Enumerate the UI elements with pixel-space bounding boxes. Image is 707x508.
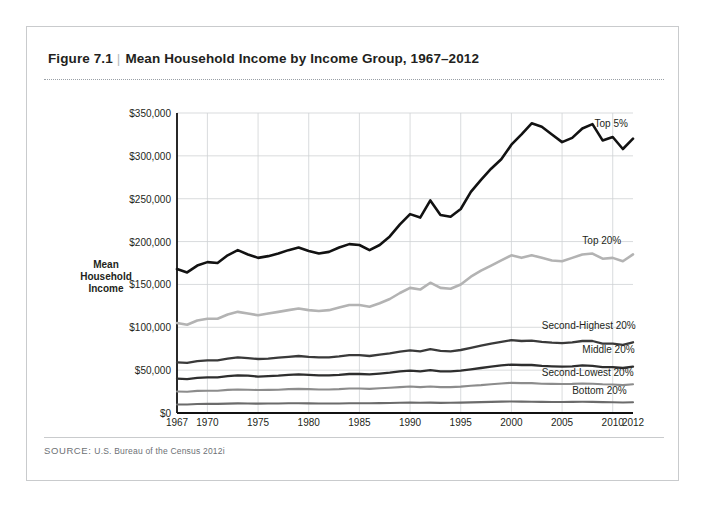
series-line <box>177 123 633 272</box>
figure-card: Figure 7.1|Mean Household Income by Inco… <box>26 26 679 481</box>
x-axis-tick-label: 1975 <box>247 417 269 428</box>
x-axis-tick-label: 1985 <box>348 417 370 428</box>
x-axis-tick-label: 1970 <box>196 417 218 428</box>
source-label: SOURCE: <box>44 445 91 456</box>
series-label: Top 5% <box>594 118 627 129</box>
y-axis-tick-label: $150,000 <box>87 279 171 290</box>
series-line <box>177 401 633 404</box>
series-label: Second-Lowest 20% <box>542 367 634 378</box>
series-line <box>177 383 633 392</box>
x-axis-tick-label: 2012 <box>622 417 644 428</box>
x-axis-tick-label: 1990 <box>399 417 421 428</box>
series-line <box>177 254 633 325</box>
y-axis-tick-label: $300,000 <box>87 150 171 161</box>
x-axis-tick-label: 1967 <box>166 417 188 428</box>
x-axis-tick-label: 1980 <box>298 417 320 428</box>
y-axis-tick-label: $250,000 <box>87 193 171 204</box>
y-axis-tick-label: $50,000 <box>87 365 171 376</box>
source-note: SOURCE: U.S. Bureau of the Census 2012i <box>44 445 225 456</box>
series-label: Middle 20% <box>582 344 634 355</box>
x-axis-tick-label: 2005 <box>551 417 573 428</box>
line-chart: $0$50,000$100,000$150,000$200,000$250,00… <box>27 27 680 482</box>
y-axis-tick-label: $100,000 <box>87 322 171 333</box>
y-axis-tick-label: $200,000 <box>87 236 171 247</box>
source-divider <box>44 437 664 438</box>
series-label: Second-Highest 20% <box>542 320 636 331</box>
y-axis-tick-label: $350,000 <box>87 108 171 119</box>
series-label: Bottom 20% <box>572 385 626 396</box>
series-label: Top 20% <box>582 235 621 246</box>
source-text: U.S. Bureau of the Census 2012i <box>94 446 224 456</box>
x-axis-tick-label: 1995 <box>450 417 472 428</box>
x-axis-tick-label: 2010 <box>602 417 624 428</box>
series-line <box>177 340 633 363</box>
x-axis-tick-label: 2000 <box>500 417 522 428</box>
y-axis-tick-label: $0 <box>87 408 171 419</box>
